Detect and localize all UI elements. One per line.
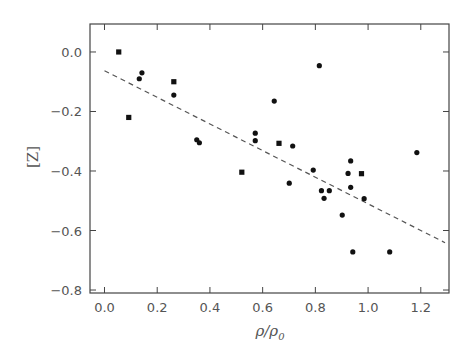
plot-border	[90, 24, 449, 293]
circle-marker	[253, 131, 258, 136]
y-tick-label: −0.6	[50, 224, 82, 239]
circle-marker	[137, 76, 142, 81]
circle-marker	[272, 98, 277, 103]
y-tick-label: −0.8	[50, 283, 82, 298]
scatter-chart: 0.00.20.40.60.81.01.2 0.0−0.2−0.4−0.6−0.…	[0, 0, 471, 357]
circle-marker	[317, 63, 322, 68]
fit-line	[104, 71, 445, 243]
x-tick-label: 0.8	[305, 300, 326, 315]
circle-marker	[362, 196, 367, 201]
square-marker	[116, 49, 121, 54]
circle-marker	[311, 168, 316, 173]
circle-marker	[348, 185, 353, 190]
circle-marker	[197, 140, 202, 145]
y-tick-label: −0.2	[50, 104, 82, 119]
circle-marker	[139, 70, 144, 75]
circle-marker	[327, 188, 332, 193]
y-axis-ticks: 0.0−0.2−0.4−0.6−0.8	[50, 45, 449, 298]
circle-marker	[171, 93, 176, 98]
x-tick-label: 0.2	[147, 300, 168, 315]
x-tick-label: 0.6	[252, 300, 273, 315]
circle-marker	[350, 249, 355, 254]
circle-marker	[340, 212, 345, 217]
square-marker	[239, 170, 244, 175]
square-marker	[276, 141, 281, 146]
y-tick-label: 0.0	[61, 45, 82, 60]
circle-marker	[414, 150, 419, 155]
x-tick-label: 0.0	[94, 300, 115, 315]
y-tick-label: −0.4	[50, 164, 82, 179]
circle-marker	[290, 143, 295, 148]
y-axis-label: [Z]	[24, 146, 42, 168]
x-tick-label: 1.2	[410, 300, 431, 315]
x-tick-label: 0.4	[200, 300, 221, 315]
x-tick-label: 1.0	[358, 300, 379, 315]
x-axis-label: ρ/ρ0	[254, 322, 285, 342]
circle-marker	[253, 138, 258, 143]
circle-marker	[319, 188, 324, 193]
regression-line	[104, 71, 445, 243]
square-marker	[126, 115, 131, 120]
circle-marker	[345, 171, 350, 176]
circle-marker	[387, 249, 392, 254]
circle-marker	[287, 181, 292, 186]
data-points	[116, 49, 419, 254]
x-axis-ticks: 0.00.20.40.60.81.01.2	[94, 24, 431, 315]
square-marker	[359, 171, 364, 176]
circle-marker	[348, 158, 353, 163]
circle-marker	[321, 196, 326, 201]
square-marker	[171, 79, 176, 84]
plot-frame	[90, 24, 449, 293]
